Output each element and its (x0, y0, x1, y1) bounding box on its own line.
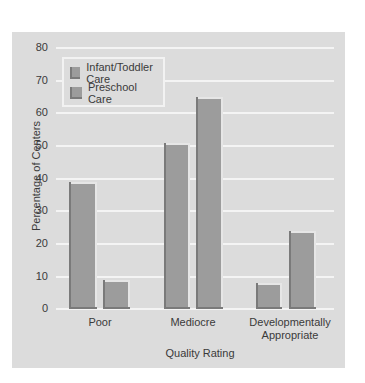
gridline-30 (56, 210, 334, 212)
ytick-80: 80 (28, 41, 48, 53)
legend-item-preschool: Preschool Care (70, 85, 163, 101)
ytick-70: 70 (28, 74, 48, 86)
bar-mediocre-infant (164, 143, 190, 309)
y-axis-label: Percentage of Centers (30, 106, 42, 246)
legend-label-preschool: Preschool Care (88, 81, 163, 105)
x-axis-label: Quality Rating (140, 347, 260, 359)
gridline-40 (56, 178, 334, 180)
gridline-50 (56, 145, 334, 147)
x-category-poor: Poor (70, 316, 130, 329)
x-category-mediocre: Mediocre (163, 316, 223, 329)
ytick-10: 10 (28, 270, 48, 282)
bar-dev-preschool (289, 231, 316, 309)
bar-poor-preschool (103, 280, 130, 309)
legend-swatch-icon (70, 67, 80, 79)
legend-swatch-icon (70, 87, 82, 99)
gridline-60 (56, 112, 334, 114)
bar-mediocre-preschool (196, 97, 223, 309)
x-category-dev-line2: Appropriate (240, 329, 340, 342)
bar-dev-infant (256, 283, 282, 309)
legend: Infant/Toddler Care Preschool Care (62, 57, 165, 107)
ytick-0: 0 (28, 302, 48, 314)
legend-item-infant: Infant/Toddler Care (70, 65, 163, 81)
bar-poor-infant (69, 182, 97, 309)
x-category-dev-line1: Developmentally (240, 316, 340, 329)
gridline-80 (56, 47, 334, 49)
